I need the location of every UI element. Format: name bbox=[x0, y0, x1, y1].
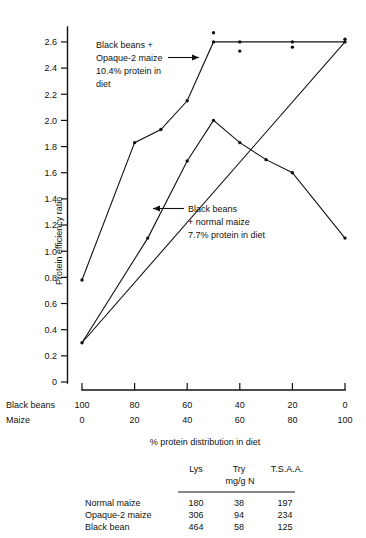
table-cell-normal-maize-try: 38 bbox=[234, 498, 244, 508]
annotation-normal-arrow-icon bbox=[153, 206, 184, 212]
x-axis: 100806040200 020406080100 Black beans Ma… bbox=[6, 383, 353, 447]
table-cell-black-bean-try: 58 bbox=[234, 522, 244, 532]
table-cell-opaque2-maize-tsaa: 234 bbox=[277, 510, 292, 520]
x-axis-title: % protein distribution in diet bbox=[150, 437, 261, 447]
annotation-opaque2-line-3: 10.4% protein in bbox=[96, 66, 161, 76]
x-axis-row-label-black-beans: Black beans bbox=[6, 400, 56, 410]
series-line-opaque2-maize bbox=[82, 42, 345, 280]
y-tick-label: 2.4 bbox=[44, 63, 57, 73]
x-tick-label-maize: 20 bbox=[130, 415, 140, 425]
data-point-marker bbox=[212, 119, 215, 122]
table-cell-black-bean-tsaa: 125 bbox=[277, 522, 292, 532]
table-cell-opaque2-maize-try: 94 bbox=[234, 510, 244, 520]
y-tick-label: 2.6 bbox=[44, 37, 57, 47]
x-tick-label-black-beans: 20 bbox=[287, 400, 297, 410]
data-point-marker bbox=[80, 341, 83, 344]
data-point-marker bbox=[291, 40, 294, 43]
y-tick-label: 1.8 bbox=[44, 142, 57, 152]
table-row: Black bean 464 58 125 bbox=[85, 522, 293, 532]
table-row-label-normal-maize: Normal maize bbox=[85, 498, 141, 508]
y-tick-label: 1.6 bbox=[44, 168, 57, 178]
annotation-normal-line-2: + normal maize bbox=[188, 217, 250, 227]
figure-container: 00.20.40.60.81.01.21.41.61.82.02.22.42.6… bbox=[0, 0, 366, 538]
table-cell-normal-maize-tsaa: 197 bbox=[277, 498, 292, 508]
annotation-normal-line-1: Black beans bbox=[188, 204, 238, 214]
y-tick-label: 0.4 bbox=[44, 325, 57, 335]
data-point-marker bbox=[238, 141, 241, 144]
table-col-header-try: Try bbox=[233, 464, 246, 474]
x-tick-label-maize: 0 bbox=[79, 415, 84, 425]
annotation-opaque2-arrow-icon bbox=[168, 55, 199, 61]
table-cell-black-bean-lys: 464 bbox=[188, 522, 203, 532]
annotation-opaque2-line-4: diet bbox=[96, 79, 111, 89]
table-units-label: mg/g N bbox=[225, 476, 254, 486]
table-col-header-lys: Lys bbox=[189, 464, 203, 474]
x-tick-label-black-beans: 60 bbox=[182, 400, 192, 410]
x-tick-label-maize: 60 bbox=[235, 415, 245, 425]
x-tick-label-black-beans: 80 bbox=[130, 400, 140, 410]
x-tick-label-black-beans: 100 bbox=[74, 400, 89, 410]
annotation-opaque2-line-1: Black beans + bbox=[96, 40, 153, 50]
y-tick-label: 2.0 bbox=[44, 116, 57, 126]
x-tick-label-maize: 80 bbox=[287, 415, 297, 425]
x-tick-label-maize: 100 bbox=[337, 415, 352, 425]
y-tick-label: 2.2 bbox=[44, 90, 57, 100]
annotation-opaque2-maize: Black beans + Opaque-2 maize 10.4% prote… bbox=[96, 40, 199, 89]
scatter-point-marker bbox=[343, 38, 346, 41]
y-tick-label: 0 bbox=[52, 377, 57, 387]
data-point-marker bbox=[186, 99, 189, 102]
protein-efficiency-chart: 00.20.40.60.81.01.21.41.61.82.02.22.42.6… bbox=[0, 0, 366, 538]
x-axis-row-label-maize: Maize bbox=[6, 415, 30, 425]
data-point-marker bbox=[133, 141, 136, 144]
series-group bbox=[80, 31, 346, 344]
data-point-marker bbox=[159, 128, 162, 131]
scatter-point-marker bbox=[238, 49, 241, 52]
data-point-marker bbox=[146, 236, 149, 239]
annotation-normal-line-3: 7.7% protein in diet bbox=[188, 230, 266, 240]
y-tick-label: 0.2 bbox=[44, 351, 57, 361]
y-tick-label: 0.6 bbox=[44, 299, 57, 309]
table-row-label-opaque2-maize: Opaque-2 maize bbox=[85, 510, 152, 520]
table-row: Normal maize 180 38 197 bbox=[85, 498, 293, 508]
x-tick-label-black-beans: 40 bbox=[235, 400, 245, 410]
table-row: Opaque-2 maize 306 94 234 bbox=[85, 510, 293, 520]
table-col-header-tsaa: T.S.A.A. bbox=[271, 464, 304, 474]
x-axis-row-black-beans: 100806040200 bbox=[74, 400, 347, 410]
data-point-marker bbox=[264, 158, 267, 161]
scatter-point-marker bbox=[212, 31, 215, 34]
table-cell-normal-maize-lys: 180 bbox=[188, 498, 203, 508]
table-row-label-black-bean: Black bean bbox=[85, 522, 130, 532]
x-tick-label-black-beans: 0 bbox=[342, 400, 347, 410]
data-point-marker bbox=[291, 171, 294, 174]
data-point-marker bbox=[80, 278, 83, 281]
y-axis: 00.20.40.60.81.01.21.41.61.82.02.22.42.6… bbox=[44, 27, 67, 387]
series-line-baseline bbox=[82, 42, 345, 343]
annotation-opaque2-line-2: Opaque-2 maize bbox=[96, 53, 163, 63]
data-point-marker bbox=[212, 40, 215, 43]
x-tick-label-maize: 40 bbox=[182, 415, 192, 425]
x-axis-row-maize: 020406080100 bbox=[79, 415, 352, 425]
y-axis-title: Protein efficiency ratio bbox=[54, 197, 64, 285]
series-markers-opaque2-maize bbox=[80, 40, 346, 281]
composition-table: Lys Try T.S.A.A. mg/g N Normal maize 180… bbox=[85, 464, 303, 532]
x-axis-ticks bbox=[82, 383, 345, 390]
scatter-point-marker bbox=[291, 45, 294, 48]
data-point-marker bbox=[238, 40, 241, 43]
annotation-normal-maize: Black beans + normal maize 7.7% protein … bbox=[153, 204, 266, 240]
data-point-marker bbox=[343, 236, 346, 239]
table-cell-opaque2-maize-lys: 306 bbox=[188, 510, 203, 520]
data-point-marker bbox=[186, 159, 189, 162]
